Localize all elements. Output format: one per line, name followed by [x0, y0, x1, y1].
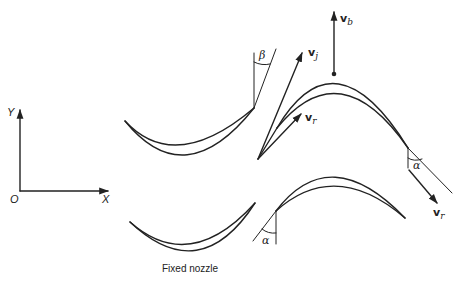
origin-label: O [10, 193, 19, 205]
blade-velocity-label: vb [340, 12, 353, 27]
relative-velocity-in-arrow [258, 114, 301, 159]
blade-point-dot [332, 72, 337, 77]
nozzle-angle-alpha: α [253, 211, 276, 247]
relative-velocity-out-arrow [409, 170, 437, 203]
y-axis-label: Y [7, 106, 15, 118]
relative-velocity-in-label: vr [305, 111, 317, 126]
x-axis-label: X [101, 193, 110, 205]
velocity-triangle: vj vr [258, 46, 318, 159]
upper-moving-blade [277, 84, 408, 148]
beta-label: β [258, 49, 265, 62]
beta-angle: β [254, 49, 276, 108]
relative-velocity-out-label: vr [433, 206, 445, 221]
lower-nozzle-blade [130, 203, 255, 251]
turbine-diagram: Y O X β vj vr [0, 0, 462, 283]
coordinate-axes: Y O X [7, 106, 110, 205]
upper-nozzle-blade [125, 108, 254, 155]
triangle-side [258, 128, 277, 159]
fixed-nozzle-caption: Fixed nozzle [162, 263, 219, 274]
alpha-nozzle-label: α [262, 234, 270, 247]
jet-velocity-arrow [258, 53, 302, 159]
exit-angle-alpha: α vr [408, 148, 452, 221]
beta-arc [254, 62, 270, 65]
lower-moving-blade [276, 177, 405, 218]
alpha-exit-label: α [413, 159, 421, 172]
alpha-nozzle-arc [262, 229, 276, 233]
jet-velocity-label: vj [308, 46, 318, 61]
blade-velocity: vb [332, 12, 353, 76]
